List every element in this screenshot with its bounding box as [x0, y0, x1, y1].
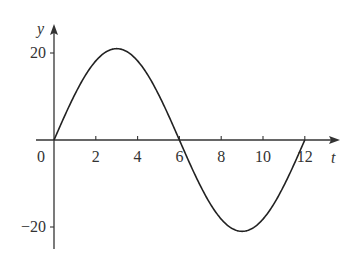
x-tick-label: 0: [37, 148, 45, 165]
x-tick-label: 8: [217, 148, 225, 165]
axes: 02468101220−20: [21, 24, 340, 249]
sine-chart: 02468101220−20 y t: [0, 0, 352, 261]
x-tick-label: 6: [175, 148, 183, 165]
x-axis-label: t: [331, 149, 336, 166]
x-tick-label: 2: [92, 148, 100, 165]
y-tick-label: −20: [21, 218, 46, 235]
y-axis-label: y: [35, 20, 45, 38]
y-tick-label: 20: [30, 44, 46, 61]
x-tick-label: 12: [297, 148, 313, 165]
x-tick-label: 4: [134, 148, 142, 165]
x-tick-label: 10: [255, 148, 271, 165]
